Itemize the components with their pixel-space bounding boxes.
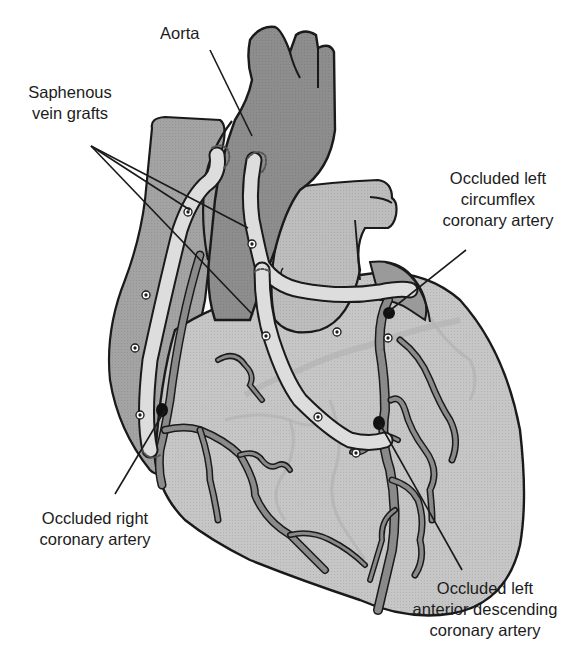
occlusion-left-anterior-descending (373, 416, 385, 430)
label-line: Occluded right (2, 508, 188, 529)
ventricles (155, 273, 524, 616)
label-line: Occluded left (414, 168, 582, 189)
label-line: Aorta (160, 23, 199, 44)
label-aorta: Aorta (160, 23, 199, 44)
label-line: coronary artery (414, 210, 582, 231)
label-occluded-left-circumflex: Occluded left circumflex coronary artery (414, 168, 582, 231)
label-line: coronary artery (388, 620, 582, 641)
label-saphenous-vein-grafts: Saphenous vein grafts (14, 82, 126, 124)
label-line: Occluded left (388, 578, 582, 599)
heart-bypass-diagram: Aorta Saphenous vein grafts Occluded lef… (0, 0, 586, 653)
label-occluded-left-anterior-descending: Occluded left anterior descending corona… (388, 578, 582, 641)
label-line: coronary artery (2, 529, 188, 550)
label-line: circumflex (414, 189, 582, 210)
label-occluded-right-coronary: Occluded right coronary artery (2, 508, 188, 550)
label-line: Saphenous (14, 82, 126, 103)
label-line: anterior descending (388, 599, 582, 620)
label-line: vein grafts (14, 103, 126, 124)
